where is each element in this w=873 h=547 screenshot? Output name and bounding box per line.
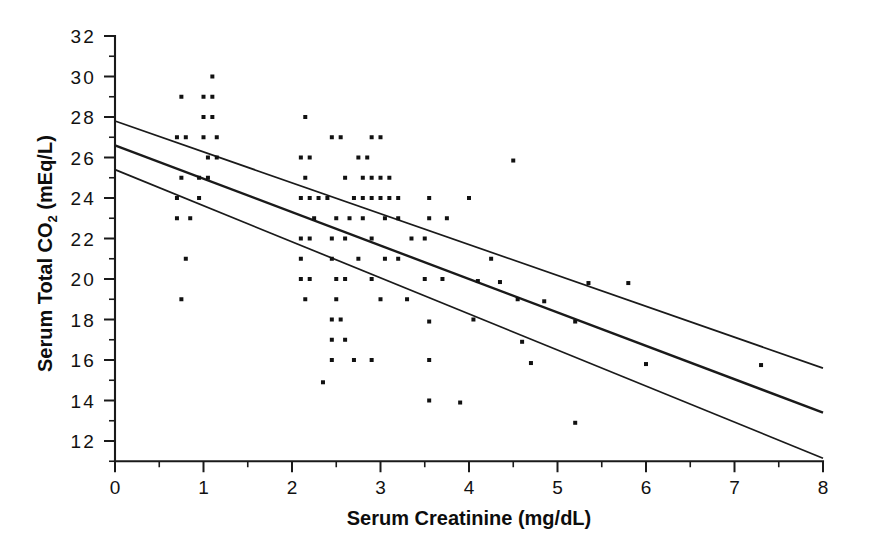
y-axis-tick-labels: 1214161820222426283032 [70,26,96,452]
y-tick-label: 26 [70,148,96,169]
data-point [370,176,374,180]
x-axis-ticks [115,461,823,472]
data-point [197,176,201,180]
data-point [210,95,214,99]
data-point [330,358,334,362]
data-point [387,196,391,200]
data-point [427,358,431,362]
x-axis-title-text: Serum Creatinine (mg/dL) [347,507,591,529]
data-point [445,216,449,220]
regression-lines [115,121,823,458]
data-point [498,280,502,284]
y-axis-title-text: Serum Total CO2 (mEq/L) [34,135,60,372]
y-axis-title-main: Serum Total CO [34,222,56,372]
data-point [179,95,183,99]
scatter-chart: Serum Total CO2 (mEq/L) Serum Creatinine… [0,0,873,547]
y-tick-label: 14 [70,391,96,412]
data-point [299,237,303,241]
data-point [330,257,334,261]
data-point [308,156,312,160]
data-point [379,297,383,301]
data-point [317,196,321,200]
data-point [427,216,431,220]
data-point [334,277,338,281]
data-point [343,237,347,241]
data-point [365,156,369,160]
chart-axes [115,36,823,461]
x-tick-label: 0 [110,477,121,498]
data-point [370,196,374,200]
y-tick-label: 30 [70,67,96,88]
data-point [330,318,334,322]
y-tick-label: 16 [70,350,96,371]
regression-line [115,145,823,412]
data-point [179,297,183,301]
data-point [330,135,334,139]
y-tick-label: 12 [70,431,96,452]
data-point [423,277,427,281]
data-point [644,362,648,366]
data-point [175,196,179,200]
y-tick-label: 18 [70,310,96,331]
y-tick-label: 28 [70,107,96,128]
data-point [330,237,334,241]
data-point [511,159,515,163]
data-point [188,216,192,220]
data-point [303,176,307,180]
data-point [626,281,630,285]
data-point [405,297,409,301]
data-point [179,176,183,180]
data-point [383,216,387,220]
data-point [370,358,374,362]
x-tick-label: 2 [287,477,298,498]
chart-canvas: Serum Total CO2 (mEq/L) Serum Creatinine… [0,0,873,547]
data-point [206,176,210,180]
data-point [325,196,329,200]
data-point [175,216,179,220]
data-point [352,358,356,362]
x-tick-label: 5 [552,477,563,498]
data-point [210,115,214,119]
y-tick-label: 22 [70,229,96,250]
data-point [379,196,383,200]
data-point [520,340,524,344]
data-point [361,216,365,220]
data-point [184,257,188,261]
data-point [334,216,338,220]
data-point [308,196,312,200]
x-tick-label: 8 [818,477,829,498]
data-point [409,237,413,241]
data-point [476,279,480,283]
data-point [215,135,219,139]
data-point [299,156,303,160]
data-point [427,196,431,200]
data-point [361,196,365,200]
data-point [467,196,471,200]
data-point [586,281,590,285]
data-point [573,421,577,425]
data-point [215,156,219,160]
data-point [343,277,347,281]
y-axis-title-subscript: 2 [45,215,60,222]
data-point [529,361,533,365]
data-point [184,135,188,139]
data-point [427,320,431,324]
lower-confidence-band [115,170,823,459]
data-point [210,75,214,79]
data-point [330,338,334,342]
data-point [361,176,365,180]
data-point [334,297,338,301]
data-point [299,257,303,261]
data-point [427,399,431,403]
x-tick-label: 1 [198,477,209,498]
data-point [387,176,391,180]
data-point [423,237,427,241]
data-point [396,216,400,220]
data-point [396,196,400,200]
data-point [458,401,462,405]
y-axis-title-units: (mEq/L) [34,135,56,215]
data-point [370,277,374,281]
data-point [312,216,316,220]
data-point [370,237,374,241]
y-axis-title: Serum Total CO2 (mEq/L) [34,135,60,372]
